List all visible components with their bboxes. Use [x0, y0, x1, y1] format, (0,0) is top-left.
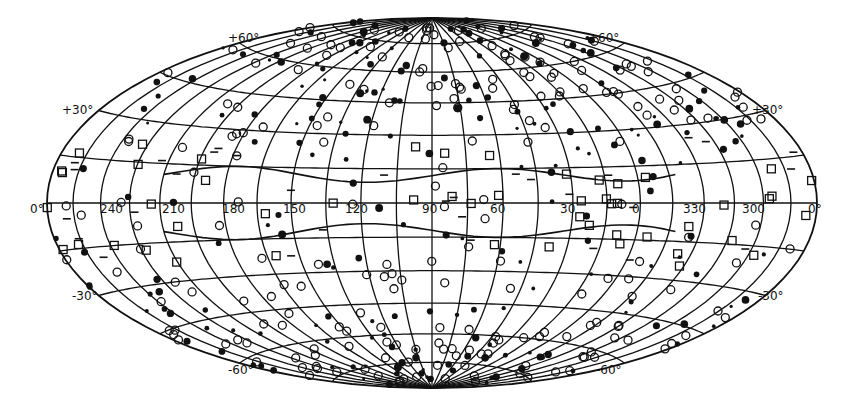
longitude-label-330: 330: [683, 202, 706, 216]
sky-map-figure: 240 210 180 150 120 90 60 30 0 330 300 0…: [0, 0, 852, 408]
equator-label-left: 0°: [30, 202, 44, 216]
latitude-label-minus60-right: -60°: [596, 363, 622, 377]
longitude-label-180: 180: [222, 202, 245, 216]
longitude-label-210: 210: [162, 202, 185, 216]
longitude-label-120: 120: [345, 202, 368, 216]
latitude-label-plus30-left: +30°: [62, 103, 93, 117]
latitude-label-plus60-right: +60°: [588, 31, 619, 45]
longitude-label-60: 60: [490, 202, 505, 216]
longitude-label-300: 300: [742, 202, 765, 216]
longitude-label-240: 240: [100, 202, 123, 216]
latitude-label-plus60-left: +60°: [228, 31, 259, 45]
equator-label-right: 0°: [808, 202, 822, 216]
aitoff-sky-map: 240 210 180 150 120 90 60 30 0 330 300 0…: [0, 0, 852, 408]
longitude-label-30: 30: [560, 202, 575, 216]
latitude-label-plus30-right: +30°: [752, 103, 783, 117]
latitude-label-minus30-left: -30°: [72, 289, 98, 303]
latitude-label-minus60-left: -60°: [228, 363, 254, 377]
latitude-label-minus30-right: -30°: [758, 289, 784, 303]
longitude-label-150: 150: [283, 202, 306, 216]
longitude-label-90: 90: [422, 202, 437, 216]
longitude-label-0: 0: [632, 202, 640, 216]
